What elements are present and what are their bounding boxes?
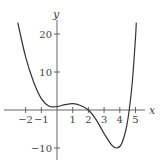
y-tick-label: 10 [39,67,52,78]
function-curve [18,23,137,148]
y-tick-label: −10 [31,143,52,154]
x-tick-label: 3 [101,114,107,125]
function-graph: −2−1123452010−10 x y [0,0,162,168]
x-tick-label: 2 [85,114,91,125]
y-tick-label: 20 [39,29,52,40]
ticks: −2−1123452010−10 [18,29,138,154]
x-tick-label: 4 [117,114,123,125]
x-tick-label: −1 [34,114,49,125]
x-tick-label: −2 [18,114,33,125]
x-axis-label: x [149,104,156,117]
x-tick-label: 5 [132,114,138,125]
y-axis-label: y [52,8,60,21]
x-tick-label: 1 [70,114,76,125]
